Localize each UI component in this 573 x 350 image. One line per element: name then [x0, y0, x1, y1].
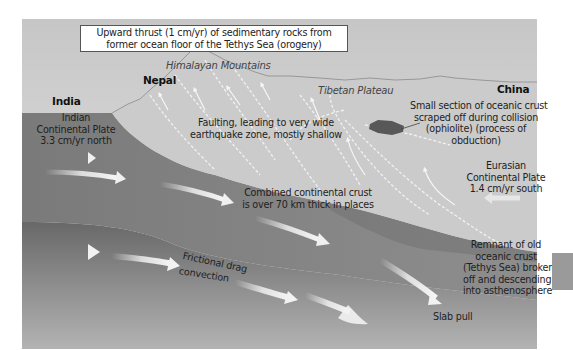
remnant-crust-label-line: oceanic crust	[463, 251, 549, 263]
nepal-label: Nepal	[143, 75, 176, 87]
faulting-label-line: earthquake zone, mostly shallow	[183, 129, 349, 141]
slab-pull-label: Slab pull	[433, 311, 472, 323]
indian-plate-label: Indian Continental Plate 3.3 cm/yr north	[26, 112, 126, 147]
remnant-crust-label-line: off and descending	[463, 274, 549, 286]
indian-plate-label-line: Indian	[26, 112, 126, 124]
eurasian-plate-label-line: Eurasian	[463, 160, 549, 172]
ophiolite-label-line: Small section of oceanic crust	[410, 100, 542, 112]
remnant-crust-label-line: (Tethys Sea) broken	[463, 262, 549, 274]
faulting-label-line: Faulting, leading to very wide	[183, 117, 349, 129]
title-line-1: Upward thrust (1 cm/yr) of sedimentary r…	[81, 27, 347, 39]
tibetan-plateau-label: Tibetan Plateau	[318, 85, 393, 97]
indian-plate-label-line: Continental Plate	[26, 124, 126, 136]
himalayan-mountains-label: Himalayan Mountains	[166, 60, 271, 72]
remnant-crust-label: Remnant of old oceanic crust (Tethys Sea…	[463, 239, 549, 297]
ophiolite-label-line: obduction)	[410, 135, 542, 147]
combined-crust-label-line: is over 70 km thick in places	[233, 199, 383, 211]
indian-plate-label-line: 3.3 cm/yr north	[26, 135, 126, 147]
combined-crust-label: Combined continental crust is over 70 km…	[233, 187, 383, 210]
title-line-2: former ocean floor of the Tethys Sea (or…	[81, 39, 347, 51]
india-label: India	[52, 96, 81, 108]
eurasian-plate-label: Eurasian Continental Plate 1.4 cm/yr sou…	[463, 160, 549, 195]
remnant-crust-label-line: into asthenosphere	[463, 285, 549, 297]
combined-crust-label-line: Combined continental crust	[233, 187, 383, 199]
china-label: China	[497, 84, 529, 96]
himalaya-collision-diagram: Upward thrust (1 cm/yr) of sedimentary r…	[0, 0, 573, 350]
remnant-crust-label-line: Remnant of old	[463, 239, 549, 251]
eurasian-plate-label-line: 1.4 cm/yr south	[463, 183, 549, 195]
eurasian-plate-label-line: Continental Plate	[463, 172, 549, 184]
ophiolite-label-line: scraped off during collision	[410, 112, 542, 124]
orogeny-title-box: Upward thrust (1 cm/yr) of sedimentary r…	[80, 25, 348, 52]
ophiolite-label: Small section of oceanic crust scraped o…	[410, 100, 542, 146]
faulting-label: Faulting, leading to very wide earthquak…	[183, 117, 349, 140]
ophiolite-label-line: (ophiolite) (process of	[410, 123, 542, 135]
page-side-tab	[552, 253, 573, 290]
